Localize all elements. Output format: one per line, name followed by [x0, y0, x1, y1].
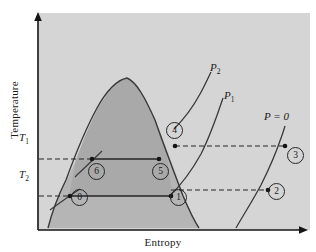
p1-symbol: P: [224, 89, 231, 101]
plot-canvas: [0, 0, 316, 252]
t2-subscript: 2: [25, 174, 29, 183]
state-marker-3: [283, 144, 288, 149]
state-point-0: 0: [71, 189, 88, 206]
y-tick-label-t2: T2: [19, 168, 29, 183]
ts-diagram-figure: Temperature Entropy T1 T2 P2 P1 P = 0 0 …: [0, 0, 316, 252]
state-point-3: 3: [287, 147, 304, 164]
state-point-4: 4: [166, 122, 183, 139]
isobar-label-p0: P = 0: [264, 110, 289, 122]
state-marker-6: [90, 157, 95, 162]
state-point-1: 1: [170, 189, 187, 206]
state-point-2: 2: [268, 183, 285, 200]
state-point-6: 6: [88, 163, 105, 180]
y-tick-label-t1: T1: [19, 131, 29, 146]
x-axis-title: Entropy: [118, 236, 208, 248]
p1-subscript: 1: [231, 95, 235, 104]
state-marker-4: [173, 144, 178, 149]
isobar-label-p1: P1: [224, 89, 234, 104]
t1-subscript: 1: [25, 137, 29, 146]
state-point-5: 5: [152, 163, 169, 180]
state-marker-5: [157, 157, 162, 162]
p2-symbol: P: [210, 61, 217, 73]
p2-subscript: 2: [217, 67, 221, 76]
isobar-label-p2: P2: [210, 61, 220, 76]
